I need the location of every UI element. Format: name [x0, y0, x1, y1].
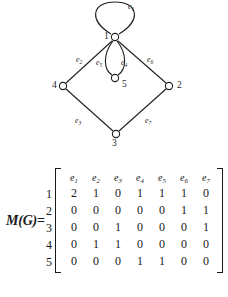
- matrix-cell-r4c4: 0: [129, 236, 151, 253]
- matrix-cell-r2c4: 0: [129, 202, 151, 219]
- matrix-row-label-2: 2: [46, 203, 54, 220]
- matrix-cell-r4c6: 0: [173, 236, 195, 253]
- matrix-col-header-e7: e7: [195, 170, 217, 185]
- matrix-cell-r5c5: 1: [151, 253, 173, 270]
- matrix-left-bracket: [55, 168, 60, 273]
- vertex-2-node: [165, 82, 172, 89]
- matrix-row-label-3: 3: [46, 220, 54, 237]
- matrix-header-row: e1 e2 e3 e4 e5 e6 e7: [63, 170, 217, 185]
- matrix-cell-r1c6: 1: [173, 185, 195, 202]
- edge-label-e2: e2: [76, 56, 82, 64]
- matrix-cell-r3c5: 0: [151, 219, 173, 236]
- vertex-label-4: 4: [52, 81, 57, 91]
- vertex-label-2: 2: [177, 81, 182, 91]
- matrix-cell-r3c7: 1: [195, 219, 217, 236]
- matrix-col-header-e2: e2: [85, 170, 107, 185]
- matrix-cell-r4c3: 1: [107, 236, 129, 253]
- vertex-label-1: 1: [104, 32, 109, 42]
- matrix-cell-r1c7: 0: [195, 185, 217, 202]
- matrix-cell-r1c5: 1: [151, 185, 173, 202]
- matrix-body: 1 2 3 4 5 e1 e2 e3 e4 e5 e6 e7 2: [46, 168, 223, 273]
- graph-svg: [0, 0, 228, 158]
- matrix-col-header-e3: e3: [107, 170, 129, 185]
- matrix-cell-r1c4: 1: [129, 185, 151, 202]
- matrix-cell-r4c7: 0: [195, 236, 217, 253]
- matrix-cell-r5c1: 0: [63, 253, 85, 270]
- vertex-3-node: [112, 130, 119, 137]
- vertex-1-node: [111, 33, 118, 40]
- edge-label-e4: e4: [121, 59, 127, 67]
- matrix-right-bracket: [218, 168, 223, 273]
- matrix-cell-r5c3: 0: [107, 253, 129, 270]
- matrix-cell-r3c2: 0: [85, 219, 107, 236]
- matrix-row: 0 0 1 0 0 0 1: [63, 219, 217, 236]
- matrix-cell-r4c5: 0: [151, 236, 173, 253]
- matrix-cell-r5c2: 0: [85, 253, 107, 270]
- matrix-cell-r4c2: 1: [85, 236, 107, 253]
- matrix-cell-r3c1: 0: [63, 219, 85, 236]
- matrix-cell-r2c6: 1: [173, 202, 195, 219]
- matrix-cell-r1c1: 2: [63, 185, 85, 202]
- vertex-label-5: 5: [122, 80, 127, 90]
- matrix-equation: M(G)= 1 2 3 4 5 e1 e2 e3 e4 e5 e6 e7: [0, 158, 228, 283]
- matrix-cell-r2c1: 0: [63, 202, 85, 219]
- matrix-row: 0 0 0 1 1 0 0: [63, 253, 217, 270]
- matrix-cell-r3c6: 0: [173, 219, 195, 236]
- matrix-cell-r5c6: 0: [173, 253, 195, 270]
- matrix-cell-r3c4: 0: [129, 219, 151, 236]
- matrix-row-label-1: 1: [46, 186, 54, 203]
- matrix-row-label-4: 4: [46, 237, 54, 254]
- graph-diagram: 1 2 3 4 5 e1 e2 e3 e4 e5 e6 e7: [0, 0, 228, 158]
- edge-label-e6: e6: [147, 56, 153, 64]
- matrix-row-label-5: 5: [46, 254, 54, 271]
- matrix-row: 2 1 0 1 1 1 0: [63, 185, 217, 202]
- matrix-col-header-e4: e4: [129, 170, 151, 185]
- matrix-lhs-label: M(G)=: [6, 213, 45, 229]
- matrix-cell-r2c5: 0: [151, 202, 173, 219]
- matrix-cell-r5c7: 0: [195, 253, 217, 270]
- edge-label-e3: e3: [75, 117, 81, 125]
- matrix-cell-r4c1: 0: [63, 236, 85, 253]
- vertex-5-node: [111, 74, 118, 81]
- matrix-cell-r2c3: 0: [107, 202, 129, 219]
- matrix-row: 0 0 0 0 0 1 1: [63, 202, 217, 219]
- matrix-cell-r2c7: 1: [195, 202, 217, 219]
- edge-e3-line: [66, 89, 113, 131]
- edge-label-e5: e5: [96, 59, 102, 67]
- matrix-cell-r1c2: 1: [85, 185, 107, 202]
- edge-label-e7: e7: [145, 117, 151, 125]
- matrix-col-header-e6: e6: [173, 170, 195, 185]
- vertex-label-3: 3: [112, 139, 117, 149]
- edge-label-e1: e1: [128, 3, 134, 11]
- edge-e7-line: [119, 89, 166, 131]
- figure-caption: [0, 287, 228, 297]
- incidence-matrix-figure: 1 2 3 4 5 e1 e2 e3 e4 e5 e6 e7 M(G)= 1 2…: [0, 0, 228, 297]
- matrix-cell-r2c2: 0: [85, 202, 107, 219]
- matrix-row: 0 1 1 0 0 0 0: [63, 236, 217, 253]
- matrix-cell-r1c3: 0: [107, 185, 129, 202]
- matrix-row-labels: 1 2 3 4 5: [46, 168, 54, 273]
- matrix-col-header-e5: e5: [151, 170, 173, 185]
- matrix-cell-r5c4: 1: [129, 253, 151, 270]
- row-label-spacer: [46, 171, 54, 186]
- matrix-grid: e1 e2 e3 e4 e5 e6 e7 2 1 0 1 1 1 0: [60, 168, 218, 273]
- vertex-4-node: [59, 82, 66, 89]
- matrix-cell-r3c3: 1: [107, 219, 129, 236]
- matrix-col-header-e1: e1: [63, 170, 85, 185]
